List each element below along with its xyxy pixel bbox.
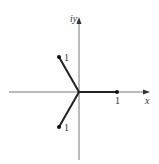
y-axis-label: iy (70, 13, 78, 24)
point-lower-left (57, 125, 61, 129)
point-upper-left (57, 55, 61, 59)
upper-left-label: 1 (64, 52, 69, 63)
lower-left-label: 1 (64, 122, 69, 133)
x-axis-label: x (144, 95, 150, 106)
cube-roots-of-unity-diagram: iy x 1 1 1 (0, 0, 159, 164)
vector-real (79, 90, 119, 94)
y-axis-arrow-icon (77, 17, 82, 24)
point-real (115, 90, 119, 94)
x-axis-arrow-icon (143, 90, 150, 95)
tick-label-1: 1 (115, 95, 120, 106)
